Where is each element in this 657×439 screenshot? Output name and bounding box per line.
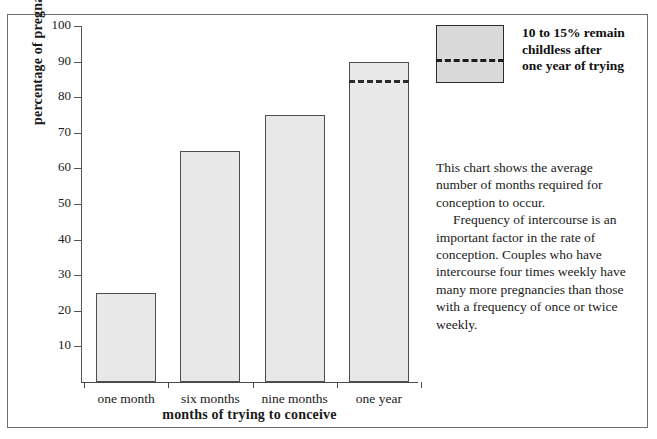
y-axis-tick: 100 xyxy=(74,26,81,27)
legend-swatch-icon xyxy=(436,25,504,83)
y-axis-tick: 30 xyxy=(74,275,81,276)
legend-label-line: 10 to 15% remain xyxy=(522,25,637,42)
y-axis-tick-label: 90 xyxy=(58,53,71,69)
bar xyxy=(265,115,325,382)
bar-chart: percentage of pregnancies 10090807060504… xyxy=(8,15,428,429)
legend-label: 10 to 15% remainchildless afterone year … xyxy=(522,25,637,75)
bar-annotation-dashed-line xyxy=(349,80,409,83)
caption-text: This chart shows the average number of m… xyxy=(436,159,636,333)
chart-figure-frame: percentage of pregnancies 10090807060504… xyxy=(7,14,648,428)
legend-label-line: childless after xyxy=(522,42,637,59)
legend: 10 to 15% remainchildless afterone year … xyxy=(436,25,636,87)
x-axis-tick-label: six months xyxy=(168,390,252,407)
x-axis-tick-label: nine months xyxy=(253,390,337,407)
x-axis-tick-label: one year xyxy=(337,390,421,407)
y-axis-tick-label: 20 xyxy=(58,302,71,318)
y-axis-tick-label: 50 xyxy=(58,195,71,211)
x-axis-tick xyxy=(337,382,338,388)
y-axis-tick-label: 30 xyxy=(58,266,71,282)
y-axis-title: percentage of pregnancies xyxy=(30,0,46,125)
y-axis-tick-label: 70 xyxy=(58,124,71,140)
legend-dashed-line-icon xyxy=(436,59,504,62)
x-axis-tick xyxy=(168,382,169,388)
bar xyxy=(349,62,409,382)
y-axis-tick: 10 xyxy=(74,346,81,347)
x-axis-tick xyxy=(84,382,85,388)
y-axis-tick-label: 10 xyxy=(58,337,71,353)
y-axis-tick: 70 xyxy=(74,133,81,134)
y-axis-tick: 80 xyxy=(74,97,81,98)
y-axis-tick: 50 xyxy=(74,204,81,205)
plot-area: 100908070605040302010 one monthsix month… xyxy=(81,26,418,382)
legend-label-line: one year of trying xyxy=(522,58,637,75)
y-axis-tick-label: 60 xyxy=(58,159,71,175)
y-axis-tick: 90 xyxy=(74,62,81,63)
y-axis-tick-label: 80 xyxy=(58,88,71,104)
caption-paragraph-2: Frequency of intercourse is an important… xyxy=(436,211,636,333)
x-axis-tick-label: one month xyxy=(84,390,168,407)
bar xyxy=(96,293,156,382)
y-axis-tick-label: 40 xyxy=(58,231,71,247)
y-axis-tick: 20 xyxy=(74,311,81,312)
y-axis-tick: 40 xyxy=(74,240,81,241)
y-axis-tick: 60 xyxy=(74,168,81,169)
bar xyxy=(180,151,240,382)
y-axis-tick-label: 100 xyxy=(52,17,72,33)
y-axis-line xyxy=(81,26,82,383)
x-axis-tick xyxy=(253,382,254,388)
x-axis-title: months of trying to conceive xyxy=(81,407,418,423)
x-axis-tick xyxy=(421,382,422,388)
x-axis-line xyxy=(81,382,418,383)
caption-paragraph-1: This chart shows the average number of m… xyxy=(436,159,636,211)
